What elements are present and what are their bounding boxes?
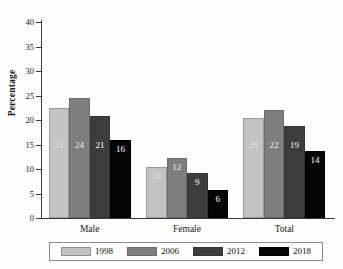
bar-value-label: 9 xyxy=(188,178,207,187)
chart-legend: 1998200620122018 xyxy=(49,242,323,261)
y-axis-tick-label: 40 xyxy=(10,18,34,27)
y-axis-tick-label: 5 xyxy=(10,190,34,199)
bar-value-label: 10 xyxy=(147,172,166,181)
legend-label-2018: 2018 xyxy=(293,247,311,256)
bar-female-2018: 6 xyxy=(208,190,229,218)
legend-item-2006[interactable]: 2006 xyxy=(127,247,179,256)
legend-swatch-2018 xyxy=(259,247,289,256)
bar-value-label: 22 xyxy=(50,141,69,150)
legend-swatch-2012 xyxy=(193,247,223,256)
y-axis-tick-label: 30 xyxy=(10,67,34,76)
bar-total-1998: 20 xyxy=(243,118,264,218)
plot-area: 2224211610129620221914 xyxy=(41,22,333,218)
bar-male-2012: 21 xyxy=(90,116,111,218)
legend-label-2012: 2012 xyxy=(227,247,245,256)
bar-total-2012: 19 xyxy=(284,126,305,218)
y-axis-tick-label: 35 xyxy=(10,43,34,52)
bar-male-2018: 16 xyxy=(110,140,131,218)
bar-female-1998: 10 xyxy=(146,167,167,218)
x-axis-label-total: Total xyxy=(244,224,324,234)
y-axis-tick-label: 15 xyxy=(10,141,34,150)
legend-item-2012[interactable]: 2012 xyxy=(193,247,245,256)
legend-item-2018[interactable]: 2018 xyxy=(259,247,311,256)
y-axis-tick-label: 20 xyxy=(10,116,34,125)
bar-male-1998: 22 xyxy=(49,108,70,218)
bar-male-2006: 24 xyxy=(69,98,90,218)
legend-swatch-1998 xyxy=(61,247,91,256)
x-axis-line xyxy=(41,218,335,219)
legend-item-1998[interactable]: 1998 xyxy=(61,247,113,256)
bar-value-label: 19 xyxy=(285,141,304,150)
y-axis-tick-label: 0 xyxy=(10,214,34,223)
bar-total-2018: 14 xyxy=(305,151,326,218)
y-axis-tick-label: 25 xyxy=(10,92,34,101)
bar-female-2006: 12 xyxy=(167,158,188,218)
legend-label-1998: 1998 xyxy=(95,247,113,256)
bar-value-label: 14 xyxy=(306,156,325,165)
x-axis-label-female: Female xyxy=(147,224,227,234)
bar-value-label: 22 xyxy=(265,141,284,150)
y-axis-tick-mark xyxy=(36,218,41,219)
bar-value-label: 24 xyxy=(70,141,89,150)
bar-total-2006: 22 xyxy=(264,110,285,218)
bar-value-label: 16 xyxy=(111,145,130,154)
bar-chart: Percentage 0510152025303540 222421161012… xyxy=(0,0,343,269)
bar-value-label: 21 xyxy=(91,141,110,150)
bar-value-label: 12 xyxy=(168,163,187,172)
bar-female-2012: 9 xyxy=(187,173,208,218)
legend-label-2006: 2006 xyxy=(161,247,179,256)
bar-value-label: 20 xyxy=(244,141,263,150)
bar-value-label: 6 xyxy=(209,195,228,204)
legend-swatch-2006 xyxy=(127,247,157,256)
y-axis-tick-label: 10 xyxy=(10,165,34,174)
x-axis-label-male: Male xyxy=(50,224,130,234)
